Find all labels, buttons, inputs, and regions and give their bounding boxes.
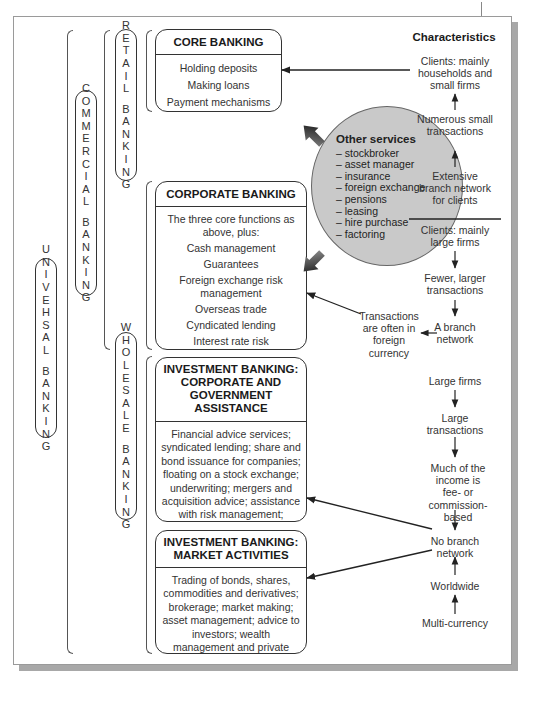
- corporate-banking-title: CORPORATE BANKING: [156, 182, 306, 207]
- core-item: Holding deposits: [160, 62, 277, 75]
- char-investment-large-firms: Large firms: [410, 375, 500, 387]
- universal-banking-label: UNIVEHSAL BANKING: [42, 243, 51, 453]
- corporate-item: The three core functions as above, plus:: [164, 213, 298, 239]
- char-investment-large-transactions: Large transactions: [418, 412, 492, 436]
- commercial-banking-label: COMMERCIAL BANKING: [81, 82, 90, 304]
- corporate-item: Guarantees: [164, 258, 298, 271]
- core-banking-box: CORE BANKING Holding deposits Making loa…: [155, 29, 282, 112]
- corporate-item: Overseas trade: [164, 303, 298, 316]
- core-item: Making loans: [160, 79, 277, 92]
- corporate-item: Interest rate risk management: [164, 335, 298, 350]
- char-investment-no-branch: No branch network: [424, 535, 486, 559]
- core-banking-list: Holding deposits Making loans Payment me…: [156, 55, 281, 112]
- char-corporate-clients: Clients: mainly large firms: [415, 224, 495, 248]
- characteristics-title: Characteristics: [394, 31, 514, 43]
- char-corporate-foreign-currency: Transactions are often in foreign curren…: [358, 310, 420, 359]
- corporate-bracket: [146, 181, 152, 350]
- investment-corporate-body: Financial advice services; syndicated le…: [156, 422, 306, 522]
- universal-banking-pill: UNIVEHSAL BANKING: [35, 258, 57, 438]
- char-retail-transactions: Numerous small transactions: [414, 113, 496, 137]
- corporate-item: Cash management: [164, 242, 298, 255]
- investment-market-body: Trading of bonds, shares, commodities an…: [156, 568, 306, 654]
- corporate-item: Cyndicated lending: [164, 319, 298, 332]
- char-retail-clients: Clients: mainly households and small fir…: [412, 55, 498, 92]
- commercial-bracket: [104, 30, 110, 350]
- wholesale-banking-label: WHOLESALE BANKING: [121, 321, 131, 531]
- wholesale-banking-pill: WHOLESALE BANKING: [115, 332, 137, 520]
- char-investment-worldwide: Worldwide: [415, 580, 495, 592]
- corporate-banking-list: The three core functions as above, plus:…: [156, 207, 306, 350]
- commercial-banking-pill: COMMERCIAL BANKING: [75, 90, 97, 296]
- retail-banking-pill: RETAIL BANKING: [115, 29, 137, 181]
- char-retail-network: Extensive branch network for clients: [419, 170, 491, 207]
- investment-corporate-title: INVESTMENT BANKING: CORPORATE AND GOVERN…: [156, 358, 306, 422]
- investment-market-box: INVESTMENT BANKING: MARKET ACTIVITIES Tr…: [155, 530, 307, 654]
- corporate-item: Foreign exchange risk management: [164, 274, 298, 300]
- core-banking-title: CORE BANKING: [156, 30, 281, 55]
- wholesale-bracket: [146, 356, 152, 654]
- retail-banking-label: RETAIL BANKING: [122, 19, 131, 191]
- corporate-banking-box: CORPORATE BANKING The three core functio…: [155, 181, 307, 350]
- investment-corporate-box: INVESTMENT BANKING: CORPORATE AND GOVERN…: [155, 357, 307, 522]
- retail-bracket: [146, 30, 152, 112]
- investment-market-title: INVESTMENT BANKING: MARKET ACTIVITIES: [156, 531, 306, 568]
- char-corporate-network: A branch network: [422, 321, 488, 345]
- char-corporate-transactions: Fewer, larger transactions: [418, 272, 492, 296]
- core-item: Payment mechanisms: [160, 96, 277, 109]
- char-investment-multicurrency: Multi-currency: [405, 617, 505, 629]
- char-investment-fee-income: Much of the income is fee- or commission…: [428, 462, 488, 523]
- universal-bracket: [67, 30, 73, 654]
